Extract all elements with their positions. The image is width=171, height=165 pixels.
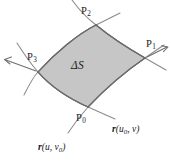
surface-patch-delta-s [38,25,145,107]
curve-label-r-u-v0-close: ) [62,142,65,152]
surface-area-label: ΔS [71,60,84,72]
point-label-p0-index: 0 [82,117,86,125]
point-label-p3: P3 [27,52,37,63]
point-label-p0: P0 [76,113,86,124]
curve-label-r-u-v0: r(u, v0) [38,142,65,153]
point-label-p2-index: 2 [87,10,91,18]
figure-canvas [0,0,171,165]
curve-label-r-u0-v: r(u0, v) [112,124,139,135]
point-label-p2: P2 [81,6,91,17]
curve-label-r-u0-v-arg1sub: 0 [124,128,127,135]
surface-patch-figure: P2 P1 P3 P0 ΔS r(u0, v) r(u, v0) [0,0,171,165]
curve-label-r-u-v0-arg2sub: 0 [59,146,62,153]
curve-label-r-u0-v-close: ) [136,124,139,134]
point-label-p3-index: 3 [33,56,37,64]
point-label-p1-index: 1 [152,43,156,51]
point-label-p1: P1 [146,39,156,50]
